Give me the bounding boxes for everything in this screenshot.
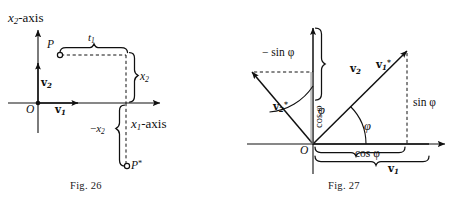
figure-26-caption: Fig. 26 xyxy=(70,180,102,191)
point-Pstar-label: P* xyxy=(131,160,142,172)
basis-vector-v2-label: v2 xyxy=(41,77,52,89)
origin-label: O xyxy=(300,145,308,157)
segment-minus-x2-label: −x2 xyxy=(90,123,105,136)
x2-axis-label: x2-axis xyxy=(8,11,43,26)
cos-phi-horizontal-label: cos φ xyxy=(355,148,380,160)
brace-v2 xyxy=(316,28,326,100)
point-P-label: P xyxy=(47,39,54,51)
point-P-marker xyxy=(57,52,62,57)
figure-page: x2-axis x1-axis P P* t1 x2 −x2 O v1 v2 xyxy=(0,0,466,206)
dashed-coordinate-lines xyxy=(61,55,126,165)
vector-v2-star-label: v2* xyxy=(273,101,288,113)
brace-minus-x2 xyxy=(116,105,125,166)
vector-v1-label: v1 xyxy=(388,163,399,175)
sin-phi-label: sin φ xyxy=(413,97,436,109)
figure-26-drawing xyxy=(0,0,233,206)
basis-vector-v1-label: v1 xyxy=(55,104,66,116)
segment-t1-label: t1 xyxy=(88,32,95,45)
point-Pstar-marker xyxy=(124,163,129,168)
vector-v1-star-label: v1* xyxy=(376,59,391,71)
origin-label: O xyxy=(26,104,34,116)
figure-27: − sin φ sin φ cos φ cos φ v2 v1* v2* v1 … xyxy=(233,0,466,206)
vector-v2-label: v2 xyxy=(350,63,361,75)
segment-x2-label: x2 xyxy=(140,71,149,84)
figure-27-caption: Fig. 27 xyxy=(328,180,360,191)
minus-sin-phi-label: − sin φ xyxy=(262,47,294,59)
brace-t1 xyxy=(60,44,128,53)
angle-phi-left-label: φ xyxy=(318,104,325,117)
figure-26: x2-axis x1-axis P P* t1 x2 −x2 O v1 v2 xyxy=(0,0,233,206)
angle-phi-right-label: φ xyxy=(364,120,371,133)
brace-x2 xyxy=(130,53,139,103)
x1-axis-label: x1-axis xyxy=(131,117,166,132)
